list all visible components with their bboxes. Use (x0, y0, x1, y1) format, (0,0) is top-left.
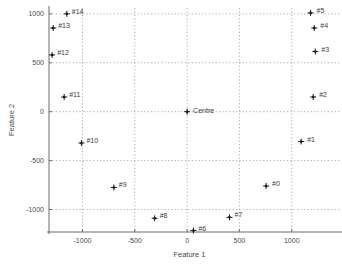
marker-center-dot (300, 140, 303, 143)
data-point: #2 (310, 91, 327, 100)
data-point-label: #4 (320, 22, 328, 29)
x-axis-label: Feature 1 (173, 250, 205, 259)
marker-center-dot (192, 229, 195, 232)
y-axis-ticks: -1000-50005001000 (26, 10, 52, 213)
y-tick-label: 0 (40, 108, 44, 115)
data-point-label: #10 (86, 137, 98, 144)
marker-center-dot (309, 12, 312, 15)
data-point: #3 (312, 46, 329, 55)
x-tick-label: -1000 (74, 237, 92, 244)
marker-center-dot (80, 142, 83, 145)
data-point: #9 (111, 181, 127, 190)
data-point: #10 (78, 137, 98, 146)
data-point: #0 (263, 180, 280, 189)
data-point-label: #1 (307, 136, 315, 143)
marker-center-dot (63, 96, 66, 99)
marker-center-dot (65, 13, 68, 16)
data-point: #1 (298, 136, 315, 145)
marker-center-dot (153, 217, 156, 220)
y-axis-label: Feature 2 (7, 104, 16, 136)
y-tick-label: 1000 (28, 10, 44, 17)
data-point-label: #6 (198, 225, 206, 232)
grid-lines (49, 8, 340, 232)
x-tick-label: 0 (185, 237, 189, 244)
data-point-label: #3 (321, 46, 329, 53)
data-points: #5#4#3#2#1#0Centre#14#13#12#11#10#9#8#7#… (49, 7, 329, 234)
scatter-plot-figure: -1000-50005001000 -1000-50005001000 #5#4… (0, 0, 342, 268)
data-point: Centre (184, 107, 214, 115)
data-point-label: #9 (119, 181, 127, 188)
marker-center-dot (312, 96, 315, 99)
data-point-label: #12 (57, 49, 69, 56)
data-point: #5 (308, 7, 325, 16)
x-tick-label: 500 (234, 237, 246, 244)
data-point-label: #7 (234, 211, 242, 218)
data-point-label: #11 (69, 91, 80, 98)
data-point-label: #8 (160, 212, 168, 219)
x-tick-label: 1000 (284, 237, 300, 244)
data-point-label: #0 (272, 180, 280, 187)
y-tick-label: 500 (32, 59, 44, 66)
data-point-label: #13 (58, 22, 70, 29)
plot-canvas: -1000-50005001000 -1000-50005001000 #5#4… (0, 0, 342, 268)
data-point-label: #2 (319, 91, 327, 98)
marker-center-dot (186, 110, 189, 113)
data-point: #13 (50, 22, 70, 31)
x-tick-label: -500 (128, 237, 142, 244)
data-point-label: Centre (193, 107, 214, 114)
y-tick-label: -500 (30, 157, 44, 164)
marker-center-dot (265, 185, 268, 188)
marker-center-dot (52, 27, 55, 30)
marker-center-dot (113, 186, 116, 189)
data-point-label: #14 (72, 8, 84, 15)
x-axis-ticks: -1000-50005001000 (74, 229, 300, 244)
marker-center-dot (51, 54, 54, 57)
data-point: #4 (311, 22, 328, 31)
data-point: #14 (64, 8, 84, 17)
data-point-label: #5 (317, 7, 325, 14)
axes (47, 6, 342, 234)
marker-center-dot (228, 216, 231, 219)
data-point: #11 (61, 91, 80, 100)
y-tick-label: -1000 (26, 206, 44, 213)
data-point: #8 (152, 212, 168, 221)
data-point: #12 (49, 49, 69, 58)
marker-center-dot (314, 50, 317, 53)
marker-center-dot (313, 27, 316, 30)
data-point: #7 (226, 211, 242, 220)
